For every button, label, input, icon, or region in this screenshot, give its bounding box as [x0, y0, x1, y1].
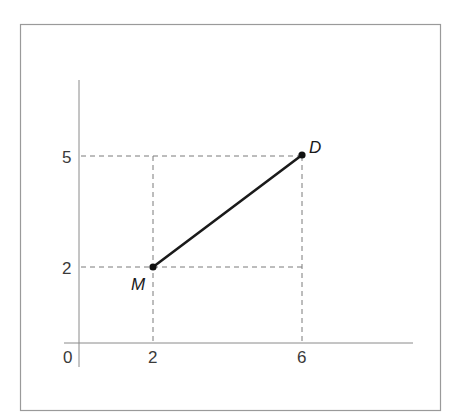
point-m	[149, 263, 156, 270]
y-tick-label-5: 5	[62, 148, 71, 167]
point-label-d: D	[309, 138, 321, 157]
point-d	[298, 151, 305, 158]
origin-label: 0	[63, 348, 72, 367]
x-tick-label-2: 2	[148, 348, 157, 367]
x-tick-label-6: 6	[297, 348, 306, 367]
point-label-m: M	[131, 275, 146, 294]
y-tick-label-2: 2	[62, 259, 71, 278]
figure-frame	[21, 25, 441, 411]
coordinate-diagram: D M 5 2 0 2 6	[0, 0, 452, 419]
